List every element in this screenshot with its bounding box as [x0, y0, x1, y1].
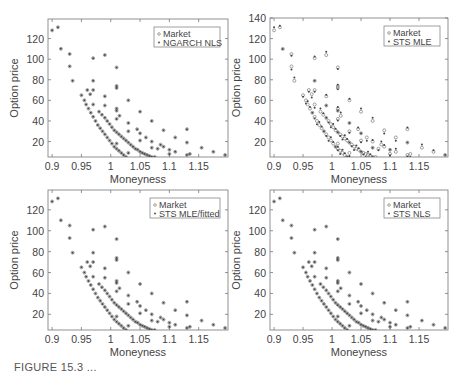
y-tick-label: 60: [254, 267, 266, 279]
x-tick-label: 1.1: [383, 333, 398, 345]
y-tick-label: 20: [254, 308, 266, 320]
x-axis-label: Moneyness: [331, 346, 388, 358]
y-tick-label: 80: [254, 246, 266, 258]
x-tick-label: 1.05: [351, 333, 372, 345]
y-tick-label: 100: [248, 225, 266, 237]
y-tick-label: 40: [254, 287, 266, 299]
x-tick-label: 0.9: [267, 333, 282, 345]
legend: MarketSTS NLS: [384, 198, 440, 219]
x-tick-label: 0.95: [293, 333, 314, 345]
legend-entry: STS NLS: [393, 209, 431, 219]
y-axis-label: Option price: [230, 230, 242, 289]
x-tick-label: 1.15: [409, 333, 430, 345]
figure-caption: FIGURE 15.3 ...: [14, 361, 97, 373]
x-tick-label: 1: [329, 333, 335, 345]
y-tick-label: 120: [248, 204, 266, 216]
